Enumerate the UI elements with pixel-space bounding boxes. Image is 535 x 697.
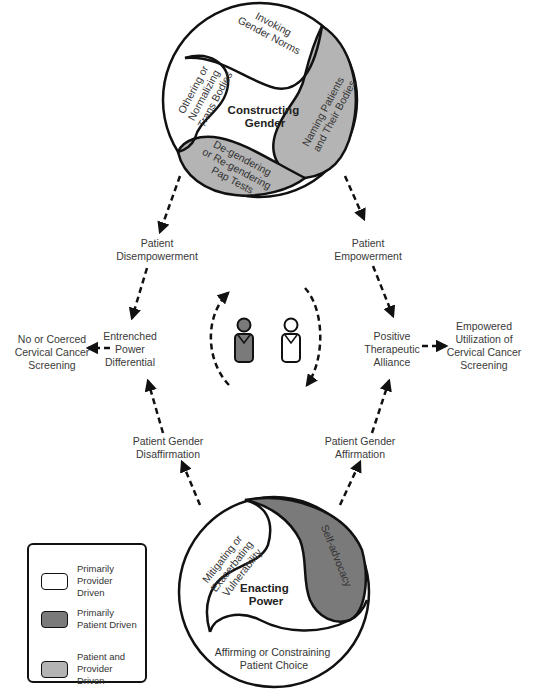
provider-person-icon <box>282 319 300 363</box>
node-entrenched-power-differential: Entrenched Power Differential <box>100 330 160 369</box>
arrow-to-empowerment <box>345 176 364 219</box>
legend: Primarily Provider Driven Primarily Pati… <box>27 543 147 683</box>
swatch-shared-icon <box>41 661 68 678</box>
swatch-patient-icon <box>41 611 68 628</box>
node-gender-disaffirmation: Patient Gender Disaffirmation <box>130 435 206 461</box>
arrow-to-disaffirmation <box>182 462 200 505</box>
node-patient-empowerment: Patient Empowerment <box>330 237 406 263</box>
legend-item-patient: Primarily Patient Driven <box>41 607 139 631</box>
arrow-to-affirmation <box>340 462 360 505</box>
node-empowered-screening: Empowered Utilization of Cervical Cancer… <box>444 320 524 372</box>
swatch-provider-icon <box>41 573 68 590</box>
legend-item-provider: Primarily Provider Driven <box>41 563 139 599</box>
arrow-to-entrenched <box>132 268 147 318</box>
arrow-to-positive-from-affirmation <box>372 381 389 433</box>
node-positive-therapeutic-alliance: Positive Therapeutic Alliance <box>362 330 422 369</box>
node-patient-disempowerment: Patient Disempowerment <box>112 237 202 263</box>
arrow-to-disempowerment <box>160 176 180 232</box>
cycle-arrow-right <box>305 288 320 385</box>
cycle-arrow-left <box>211 293 229 385</box>
node-no-coerced-screening: No or Coerced Cervical Cancer Screening <box>14 333 90 372</box>
arrow-to-positive-alliance <box>373 266 393 316</box>
node-gender-affirmation: Patient Gender Affirmation <box>322 435 398 461</box>
legend-item-shared: Patient and Provider Driven <box>41 651 139 687</box>
patient-person-icon <box>235 319 253 363</box>
arrow-to-entrenched-from-disaffirmation <box>148 381 163 433</box>
